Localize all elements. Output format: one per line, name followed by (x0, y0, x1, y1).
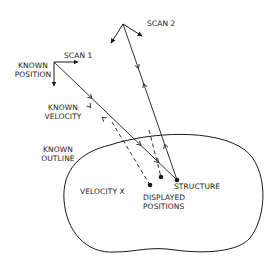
known-position-line1: KNOWN (13, 61, 53, 70)
scan2-dashed-path (149, 130, 161, 177)
velocity-x-label: VELOCITY X (80, 187, 125, 196)
displayed-position-dot-1 (148, 183, 153, 188)
known-velocity-line1: KNOWN (43, 103, 83, 112)
known-outline-line2: OUTLINE (41, 154, 75, 163)
known-outline-line1: KNOWN (41, 145, 75, 154)
diagram-canvas (0, 0, 272, 262)
known-position-line2: POSITION (13, 70, 53, 79)
known-position-label: KNOWN POSITION (13, 61, 53, 79)
scan1-label: SCAN 1 (64, 51, 93, 60)
known-velocity-line2: VELOCITY (43, 112, 83, 121)
scan2-label: SCAN 2 (147, 19, 176, 28)
structure-label: STRUCTURE (174, 182, 220, 191)
scan1-dashed-path (112, 122, 150, 185)
displayed-positions-line1: DISPLAYED (143, 193, 185, 202)
displayed-position-dot-2 (159, 175, 164, 180)
displayed-positions-line2: POSITIONS (143, 202, 185, 211)
scan2-to-structure-path (123, 24, 177, 180)
known-velocity-label: KNOWN VELOCITY (43, 103, 83, 121)
known-outline-label: KNOWN OUTLINE (41, 145, 75, 163)
displayed-positions-label: DISPLAYED POSITIONS (143, 193, 185, 211)
